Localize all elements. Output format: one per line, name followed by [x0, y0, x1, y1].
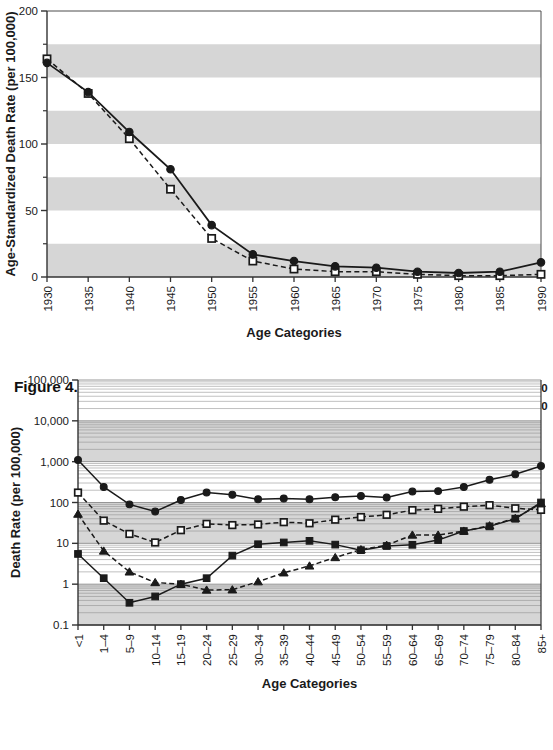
data-point-filled-circle — [203, 489, 210, 496]
x-tick-label-8: 1970 — [371, 286, 383, 312]
data-point-filled-square — [461, 528, 468, 535]
data-point-filled-square — [178, 581, 185, 588]
data-point-open-square — [203, 521, 210, 528]
data-point-filled-circle — [332, 494, 339, 501]
data-point-filled-circle — [455, 269, 462, 276]
x-tick-label-13: 60–64 — [407, 633, 419, 666]
series-line-Male — [47, 63, 541, 273]
data-point-filled-circle — [383, 494, 390, 501]
data-point-open-square — [512, 505, 519, 512]
data-point-open-square — [126, 531, 133, 538]
data-point-open-square — [409, 507, 416, 514]
data-point-open-square — [332, 516, 339, 523]
x-tick-label-0: 1930 — [42, 286, 54, 312]
data-point-open-square — [100, 517, 107, 524]
data-point-filled-circle — [249, 251, 256, 258]
x-tick-label-14: 65–69 — [433, 634, 445, 666]
y-tick-label-3: 150 — [19, 72, 38, 84]
data-point-filled-circle — [414, 268, 421, 275]
top-y-axis-title: Age-Standardized Death Rate (per 100,000… — [3, 11, 18, 276]
data-point-filled-circle — [255, 496, 262, 503]
band-1 — [47, 177, 541, 210]
data-point-filled-circle — [435, 488, 442, 495]
data-point-open-square — [255, 521, 262, 528]
data-point-filled-square — [126, 599, 133, 606]
x-tick-label-2: 5–9 — [124, 634, 136, 653]
x-tick-label-12: 1990 — [536, 286, 548, 312]
top-chart-panel: 0501001502001930193519401945195019551960… — [0, 0, 553, 345]
data-point-filled-square — [100, 575, 107, 582]
data-point-open-square — [152, 539, 159, 546]
data-point-open-square — [358, 514, 365, 521]
data-point-filled-circle — [208, 221, 215, 228]
data-point-filled-circle — [100, 484, 107, 491]
data-point-filled-circle — [229, 491, 236, 498]
x-tick-label-6: 25–29 — [227, 634, 239, 666]
data-point-filled-square — [512, 515, 519, 522]
x-tick-label-16: 75–79 — [484, 634, 496, 666]
band-3 — [47, 44, 541, 77]
data-point-filled-circle — [496, 268, 503, 275]
x-tick-label-4: 15–19 — [175, 634, 187, 666]
x-tick-label-18: 85+ — [536, 634, 548, 654]
data-point-filled-circle — [460, 484, 467, 491]
x-tick-label-12: 55–59 — [381, 634, 393, 666]
data-point-filled-square — [306, 538, 313, 545]
x-tick-label-3: 1945 — [165, 286, 177, 312]
data-point-filled-circle — [358, 492, 365, 499]
data-point-filled-circle — [538, 463, 545, 470]
band-2 — [47, 111, 541, 144]
x-tick-label-2: 1940 — [124, 286, 136, 312]
y-tick-label-0: 0 — [32, 271, 38, 283]
data-point-open-square — [280, 519, 287, 526]
x-tick-label-1: 1–4 — [98, 633, 110, 653]
x-tick-label-1: 1935 — [83, 286, 95, 312]
top-x-axis-title: Age Categories — [246, 325, 341, 340]
x-tick-label-5: 1955 — [247, 286, 259, 312]
data-point-open-square — [538, 507, 545, 514]
data-point-filled-square — [280, 539, 287, 546]
data-point-open-square — [435, 506, 442, 513]
y-tick-label-6: 100,000 — [27, 374, 69, 386]
data-point-filled-square — [486, 523, 493, 530]
data-point-open-square — [290, 265, 297, 272]
data-point-filled-circle — [43, 59, 50, 66]
data-point-filled-square — [435, 537, 442, 544]
top-chart-svg: 0501001502001930193519401945195019551960… — [0, 0, 553, 345]
y-tick-label-3: 100 — [50, 497, 69, 509]
data-point-open-square — [167, 186, 174, 193]
data-point-filled-square — [358, 547, 365, 554]
data-point-open-square — [178, 527, 185, 534]
y-tick-label-1: 1 — [63, 578, 69, 590]
data-point-filled-square — [255, 541, 262, 548]
y-tick-label-5: 10,000 — [34, 415, 69, 427]
data-point-open-square — [229, 522, 236, 529]
x-tick-label-0: <1 — [73, 634, 85, 647]
data-point-filled-circle — [409, 488, 416, 495]
x-tick-label-7: 1965 — [330, 286, 342, 312]
data-point-filled-square — [229, 552, 236, 559]
x-tick-label-6: 1960 — [289, 286, 301, 312]
data-point-filled-square — [409, 542, 416, 549]
x-tick-label-7: 30–34 — [253, 633, 265, 666]
data-point-open-square — [75, 489, 82, 496]
data-point-open-square — [306, 520, 313, 527]
data-point-open-square — [383, 511, 390, 518]
x-tick-label-9: 40–44 — [304, 633, 316, 666]
y-tick-label-0: 0.1 — [53, 619, 69, 631]
data-point-open-square — [461, 503, 468, 510]
data-point-open-square — [537, 271, 544, 278]
data-point-filled-circle — [126, 128, 133, 135]
top-plot: 0501001502001930193519401945195019551960… — [19, 5, 548, 312]
data-point-filled-square — [203, 575, 210, 582]
x-tick-label-4: 1950 — [206, 286, 218, 312]
bottom-plot: 0.11101001,00010,000100,000<11–45–910–14… — [27, 374, 547, 666]
data-point-filled-square — [332, 541, 339, 548]
bottom-chart-panel: 0.11101001,00010,000100,000<11–45–910–14… — [0, 370, 553, 750]
x-tick-label-5: 20–24 — [201, 633, 213, 666]
series-line-Female — [47, 59, 541, 276]
data-point-filled-circle — [177, 497, 184, 504]
x-tick-label-10: 1980 — [453, 286, 465, 312]
x-tick-label-9: 1975 — [412, 286, 424, 312]
bottom-chart-svg: 0.11101001,00010,000100,000<11–45–910–14… — [0, 370, 553, 750]
